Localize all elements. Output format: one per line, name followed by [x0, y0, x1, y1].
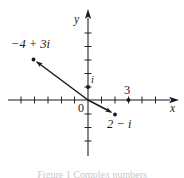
argand-diagram-plot [0, 0, 184, 178]
point-2-minus-i [113, 113, 117, 117]
point-label-i: i [91, 75, 94, 86]
vector-to-2-minus-i [88, 100, 111, 112]
point-label-minus4-plus-3i: −4 + 3i [11, 38, 50, 51]
vector-to-minus4-plus-3i [37, 62, 88, 100]
y-axis-label: y [74, 14, 79, 26]
complex-plane-figure: −4 + 3i 2 − i 3 i 0 x y Figure 1 Complex… [0, 0, 184, 178]
origin-label: 0 [78, 102, 84, 114]
point-i [86, 85, 90, 89]
point-minus4-plus-3i [32, 58, 36, 62]
point-label-2-minus-i: 2 − i [107, 118, 131, 131]
point-3 [127, 98, 131, 102]
figure-caption-fragment: Figure 1 Complex numbers [0, 169, 184, 178]
x-axis-label: x [170, 103, 175, 115]
point-label-3: 3 [124, 84, 130, 97]
